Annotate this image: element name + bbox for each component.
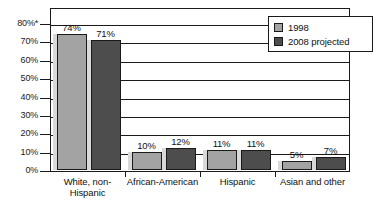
y-tick-mark (40, 79, 50, 80)
y-tick-mark (40, 171, 50, 172)
y-tick-label: 80%* (0, 19, 38, 28)
y-tick-mark (40, 61, 50, 62)
y-tick-label: 60% (0, 56, 38, 65)
x-category-label: African-American (125, 176, 200, 187)
bar-rect (316, 157, 346, 170)
x-tick-mark (125, 172, 126, 177)
y-tick-mark (40, 98, 50, 99)
legend-swatch (274, 23, 283, 32)
legend-label: 1998 (288, 22, 309, 33)
legend-item: 1998 (274, 20, 368, 34)
bar-chart: 0%10%20%30%40%50%60%70%80%* 74%71%10%12%… (0, 0, 373, 211)
y-tick-label: 20% (0, 129, 38, 138)
x-category-label-line: Hispanic (200, 176, 275, 187)
bar-rect (282, 161, 312, 170)
y-tick-label: 10% (0, 148, 38, 157)
x-category-label: Hispanic (200, 176, 275, 187)
x-category-label-line: African-American (125, 176, 200, 187)
x-axis: White, non-HispanicAfrican-AmericanHispa… (50, 176, 350, 211)
y-tick-label: 70% (0, 37, 38, 46)
x-category-label: Asian and other (275, 176, 350, 187)
x-tick-mark (275, 172, 276, 177)
bar: 5% (282, 161, 312, 170)
x-category-label-line: Hispanic (50, 187, 125, 198)
y-tick-mark (40, 134, 50, 135)
bar-value-label: 7% (324, 146, 337, 156)
x-category-label-line: White, non- (50, 176, 125, 187)
y-tick-label: 50% (0, 74, 38, 83)
bar-value-label: 5% (290, 150, 303, 160)
legend-swatch (274, 37, 283, 46)
legend-label: 2008 projected (288, 36, 349, 47)
x-category-label-line: Asian and other (275, 176, 350, 187)
y-tick-label: 30% (0, 111, 38, 120)
y-tick-mark (40, 153, 50, 154)
y-tick-mark (40, 116, 50, 117)
y-tick-label: 0% (0, 166, 38, 175)
x-category-label: White, non-Hispanic (50, 176, 125, 198)
chart-legend: 19982008 projected (268, 16, 373, 52)
legend-item: 2008 projected (274, 34, 368, 48)
y-axis: 0%10%20%30%40%50%60%70%80%* (0, 0, 38, 211)
bar: 7% (316, 157, 346, 170)
y-tick-mark (40, 24, 50, 25)
x-tick-mark (200, 172, 201, 177)
y-tick-mark (40, 42, 50, 43)
y-tick-label: 40% (0, 93, 38, 102)
